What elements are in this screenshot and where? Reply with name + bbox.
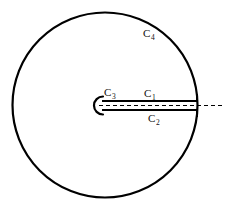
label-c2: C2 <box>148 113 160 124</box>
label-c4: C4 <box>143 28 155 39</box>
label-c1: C1 <box>144 88 156 99</box>
contour-diagram-canvas <box>0 0 229 212</box>
label-c3: C3 <box>104 87 116 98</box>
contour-diagram-figure: C1 C2 C3 C4 <box>0 0 229 212</box>
